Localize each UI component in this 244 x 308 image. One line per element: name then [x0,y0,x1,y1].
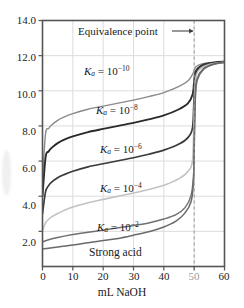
curve-label-ka-1e-4: Ka = 10−4 [100,181,142,195]
equals-ten: = 10 [108,221,131,233]
equals-ten: = 10 [111,143,134,155]
curve-label-ka-1e-6: Ka = 10−6 [100,142,142,156]
exponent: −4 [134,181,142,190]
equivalence-point-label: Equivalence point [78,25,158,37]
annotation-arrow-head [189,29,193,34]
exponent: −2 [131,220,139,229]
titration-curve-figure: 14.0 12.0 10.0 8.0 6.0 4.0 2.0 0 10 20 3… [0,0,244,308]
equals-ten: = 10 [107,104,130,116]
curve-label-ka-1e-8: Ka = 10−8 [96,103,138,117]
curve-label-ka-1e-2: Ka = 10−2 [97,220,139,234]
exponent: −10 [118,64,130,73]
curve-label-ka-1e-10: Ka = 10−10 [84,64,130,78]
equals-ten: = 10 [95,65,118,77]
equals-ten: = 10 [111,182,134,194]
exponent: −8 [130,103,138,112]
curve-label-strong-acid: Strong acid [89,246,142,258]
exponent: −6 [134,142,142,151]
